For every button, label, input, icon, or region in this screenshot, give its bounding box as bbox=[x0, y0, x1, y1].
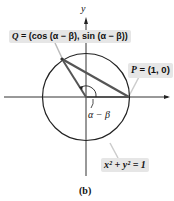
circle-equation-label: x² + y² = 1 bbox=[101, 158, 149, 172]
p-leader-line bbox=[129, 75, 140, 96]
q-leader-line bbox=[55, 43, 62, 58]
x-axis-arrow-icon bbox=[164, 95, 170, 99]
p-coords: (1, 0) bbox=[148, 64, 170, 75]
point-q-label: Q = (cos (α − β), sin (α − β)) bbox=[9, 30, 131, 43]
y-axis-label: y bbox=[81, 4, 85, 14]
figure-caption: (b) bbox=[79, 186, 91, 196]
point-p-label: P = (1, 0) bbox=[128, 63, 173, 78]
eq-leader-line bbox=[110, 143, 118, 158]
q-coords: (cos (α − β), sin (α − β)) bbox=[29, 31, 128, 41]
y-axis-arrow-icon bbox=[84, 17, 88, 24]
equation-text: x² + y² = 1 bbox=[104, 159, 146, 170]
q-equals: = bbox=[19, 31, 29, 41]
angle-label: α − β bbox=[88, 110, 110, 120]
angle-pointer bbox=[91, 99, 93, 108]
p-equals: = bbox=[137, 64, 148, 75]
point-q-dot bbox=[60, 57, 63, 60]
